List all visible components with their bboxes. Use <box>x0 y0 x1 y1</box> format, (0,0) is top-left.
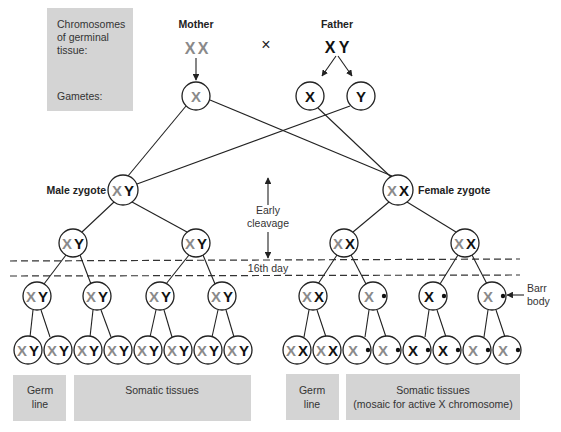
legend-gametes: Gametes: <box>57 90 103 102</box>
male-zygote-label: Male zygote <box>46 184 106 196</box>
father: Father X Y X Y <box>296 18 375 110</box>
cross-symbol: × <box>261 36 270 53</box>
legend-box: Chromosomes of germinal tissue: Gametes: <box>47 8 133 111</box>
svg-text:X: X <box>498 342 508 359</box>
male-tree-edges <box>30 202 234 337</box>
svg-text:Y: Y <box>161 288 171 305</box>
svg-text:Y: Y <box>209 342 219 359</box>
barr-body-dot <box>442 294 446 298</box>
svg-text:X: X <box>77 342 87 359</box>
svg-text:Somatic tissues: Somatic tissues <box>396 384 470 396</box>
svg-text:Y: Y <box>29 342 39 359</box>
svg-text:Y: Y <box>223 288 233 305</box>
svg-text:Somatic tissues: Somatic tissues <box>125 384 199 396</box>
svg-text:X: X <box>227 342 237 359</box>
father-x: X <box>325 39 336 56</box>
dashed-line-top <box>10 259 520 261</box>
father-gamete-x: X <box>305 88 315 105</box>
mother-x2: X <box>198 40 209 57</box>
svg-text:X: X <box>438 342 448 359</box>
svg-text:X: X <box>107 342 117 359</box>
mother-label: Mother <box>179 18 214 30</box>
svg-text:X: X <box>302 288 312 305</box>
female-somatic-box: Somatic tissues (mosaic for active X chr… <box>346 374 520 420</box>
svg-text:Germ: Germ <box>299 384 326 396</box>
dashed-line-bottom <box>10 275 520 276</box>
male-zygote: Male zygote X Y <box>46 175 138 205</box>
svg-text:X: X <box>185 235 195 252</box>
svg-text:X: X <box>211 288 221 305</box>
barr-body-annotation: Barr body <box>507 282 551 307</box>
svg-text:body: body <box>527 295 551 307</box>
svg-text:X: X <box>466 235 476 252</box>
svg-text:Barr: Barr <box>527 282 547 294</box>
svg-text:X: X <box>17 342 27 359</box>
svg-text:Y: Y <box>119 342 129 359</box>
mother: Mother X X X <box>179 18 214 110</box>
father-gamete-y: Y <box>356 88 366 105</box>
svg-text:Y: Y <box>179 342 189 359</box>
svg-text:Y: Y <box>98 288 108 305</box>
svg-text:(mosaic for active X chromosom: (mosaic for active X chromosome) <box>353 398 512 410</box>
father-y: Y <box>339 39 350 56</box>
svg-text:Germ: Germ <box>27 384 54 396</box>
svg-text:X: X <box>149 288 159 305</box>
male-somatic-box: Somatic tissues <box>74 375 251 421</box>
svg-text:Y: Y <box>89 342 99 359</box>
female-tree-edges <box>304 202 505 337</box>
svg-text:X: X <box>348 342 358 359</box>
svg-text:Y: Y <box>59 342 69 359</box>
svg-text:line: line <box>304 398 321 410</box>
svg-text:X: X <box>424 288 434 305</box>
svg-text:X: X <box>378 342 388 359</box>
fertilization-lines <box>128 100 392 184</box>
svg-text:X: X <box>316 342 326 359</box>
svg-text:X: X <box>483 288 493 305</box>
svg-text:X: X <box>298 342 308 359</box>
svg-text:cleavage: cleavage <box>247 217 289 229</box>
female-row-3: X X X X X <box>299 282 506 310</box>
svg-text:X: X <box>408 342 418 359</box>
father-arrow-right-icon <box>338 56 352 76</box>
mother-x1: X <box>185 40 196 57</box>
male-germ-line-box: Germ line <box>13 375 66 421</box>
x-inactivation-diagram: Chromosomes of germinal tissue: Gametes:… <box>0 0 561 432</box>
female-zygote: X X Female zygote <box>383 175 491 205</box>
svg-text:X: X <box>167 342 177 359</box>
svg-text:X: X <box>197 342 207 359</box>
svg-text:Y: Y <box>239 342 249 359</box>
day-marker-label: 16th day <box>248 262 289 274</box>
svg-text:Y: Y <box>38 288 48 305</box>
early-cleavage-marker: Early cleavage <box>247 178 289 258</box>
svg-text:X: X <box>454 235 464 252</box>
svg-text:X: X <box>364 288 374 305</box>
female-germ-line-box: Germ line <box>286 374 339 420</box>
svg-text:Y: Y <box>149 342 159 359</box>
father-arrow-left-icon <box>322 56 336 76</box>
svg-text:Early: Early <box>256 204 281 216</box>
svg-text:X: X <box>62 235 72 252</box>
svg-text:X: X <box>137 342 147 359</box>
svg-text:X: X <box>86 288 96 305</box>
svg-text:X: X <box>333 235 343 252</box>
father-label: Father <box>321 18 353 30</box>
legend-line-3: tissue: <box>57 44 87 56</box>
barr-body-dot <box>501 294 505 298</box>
svg-text:X: X <box>345 235 355 252</box>
svg-text:line: line <box>32 398 49 410</box>
svg-text:X: X <box>328 342 338 359</box>
female-row-4: X X X X X X X X X X <box>283 336 521 364</box>
svg-text:X: X <box>47 342 57 359</box>
svg-text:Y: Y <box>197 235 207 252</box>
male-row-4: X Y X Y X Y X Y X Y X Y X Y X Y <box>14 336 252 364</box>
barr-body-dot <box>382 294 386 298</box>
svg-text:X: X <box>112 182 122 199</box>
svg-text:X: X <box>314 288 324 305</box>
female-row-2: X X X X <box>330 229 479 257</box>
svg-text:Y: Y <box>74 235 84 252</box>
mother-gamete-x: X <box>191 88 201 105</box>
legend-line-2: of germinal <box>57 31 109 43</box>
svg-text:X: X <box>26 288 36 305</box>
male-row-2: X Y X Y <box>59 229 210 257</box>
male-row-3: X Y X Y X Y X Y <box>23 282 236 310</box>
